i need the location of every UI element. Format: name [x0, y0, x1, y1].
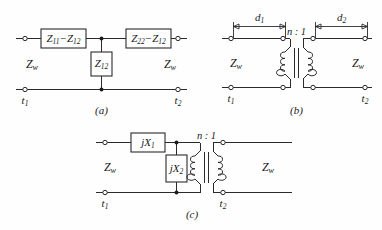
circuit-c-node-bottom — [175, 191, 179, 195]
circuit-c-terminal-top-right — [221, 140, 225, 144]
circuit-b-dimension-left-label: d1 — [255, 12, 264, 24]
circuit-b-impedance-left-label: Zw — [230, 57, 242, 71]
circuit-c-primary-lead-top — [195, 143, 200, 157]
circuit-b-secondary-lead-top — [303, 39, 308, 53]
circuit-c-secondary-lead-top — [213, 143, 218, 157]
circuit-c-primary-coil — [187, 156, 195, 180]
circuit-a-shunt-label: Z12 — [95, 58, 109, 70]
circuit-b-primary-lead-top — [285, 39, 290, 53]
circuit-c-impedance-right-label: Zw — [262, 161, 274, 175]
circuit-a-series-left-label: Z11−Z12 — [46, 33, 80, 45]
circuit-c-terminal-top-left — [103, 140, 107, 144]
circuit-b-terminal-top-left-inner — [281, 36, 285, 40]
figure-root: Z11−Z12 Z22−Z12 Z12 Zw Zw t1 t2 (a) d1 d… — [0, 0, 382, 230]
circuit-b-caption: (b) — [290, 105, 303, 116]
circuit-a-node-bottom — [100, 88, 104, 92]
circuit-c-terminal-left-label: t1 — [102, 198, 109, 210]
circuit-a-node-top — [100, 37, 104, 41]
circuit-b-terminal-top-left-outer — [229, 36, 233, 40]
circuit-b-terminal-bottom-right-inner — [311, 85, 315, 89]
circuit-a-impedance-right-label: Zw — [164, 58, 176, 72]
circuit-a-terminal-bottom-right — [176, 87, 180, 91]
circuit-b-terminal-right-label: t2 — [362, 93, 369, 105]
circuit-c-terminal-right-label: t2 — [220, 198, 227, 210]
circuit-b-secondary-lead-bottom — [303, 74, 308, 88]
circuit-b-terminal-left-label: t1 — [228, 93, 235, 105]
circuit-b-primary-coil — [276, 52, 285, 76]
circuit-b-terminal-bottom-left-inner — [281, 85, 285, 89]
circuit-a-impedance-left-label: Zw — [26, 58, 38, 72]
circuit-b-primary-lead-bottom — [285, 74, 290, 88]
circuit-b-dimension-right-label: d2 — [337, 12, 346, 24]
circuit-b-terminal-top-right-outer — [363, 36, 367, 40]
circuit-c-secondary-lead-bottom — [213, 179, 218, 193]
circuit-a-terminal-top-left — [23, 36, 27, 40]
circuit-b-terminal-top-right-inner — [311, 36, 315, 40]
circuit-c-primary-lead-bottom — [195, 179, 200, 193]
circuit-c-shunt-reactance-label: jX2 — [170, 163, 184, 175]
circuit-a-terminal-bottom-left — [23, 87, 27, 91]
circuit-b-secondary-coil — [308, 52, 317, 76]
circuit-b-terminal-bottom-left-outer — [229, 85, 233, 89]
circuit-c-secondary-coil — [218, 156, 226, 180]
circuit-c-caption: (c) — [186, 209, 198, 220]
circuit-a-series-right-label: Z22−Z12 — [131, 33, 166, 45]
circuit-c-terminal-bottom-left — [103, 190, 107, 194]
circuit-c-series-reactance-label: jX1 — [141, 137, 155, 149]
circuit-c-impedance-left-label: Zw — [104, 161, 116, 175]
circuit-c-turns-ratio-label: n : 1 — [197, 131, 216, 142]
circuit-a-terminal-left-label: t1 — [22, 95, 29, 107]
circuit-a-terminal-right-label: t2 — [175, 95, 182, 107]
circuit-c-node-top — [175, 141, 179, 145]
circuit-b-impedance-right-label: Zw — [352, 57, 364, 71]
circuit-a-terminal-top-right — [176, 36, 180, 40]
circuit-b-turns-ratio-label: n : 1 — [287, 27, 306, 38]
circuit-b-terminal-bottom-right-outer — [363, 85, 367, 89]
circuit-c-terminal-bottom-right — [221, 190, 225, 194]
circuit-a-caption: (a) — [95, 105, 108, 116]
